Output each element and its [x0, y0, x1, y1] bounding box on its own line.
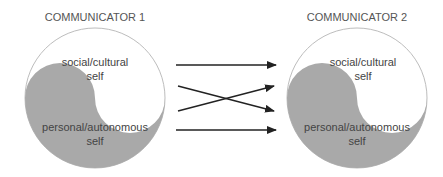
communicator-2: COMMUNICATOR 2 social/cultural self pers…: [287, 11, 427, 168]
communicator-1-social-label-line2: self: [86, 70, 104, 82]
communicator-2-personal-label-line1: personal/autonomous: [304, 121, 410, 133]
communicator-2-title: COMMUNICATOR 2: [307, 11, 407, 23]
communicator-1-personal-label-line1: personal/autonomous: [42, 121, 148, 133]
communicator-1: COMMUNICATOR 1 social/cultural self pers…: [25, 11, 165, 168]
communicator-2-social-label-line2: self: [354, 70, 372, 82]
communicator-2-social-label-line1: social/cultural: [330, 56, 397, 68]
communicator-2-personal-label-line2: self: [348, 135, 366, 147]
communicator-1-social-label-line1: social/cultural: [62, 56, 129, 68]
communicator-1-title: COMMUNICATOR 1: [45, 11, 145, 23]
communication-diagram: COMMUNICATOR 1 social/cultural self pers…: [0, 0, 443, 177]
arrows: [176, 65, 276, 130]
communicator-1-personal-label-line2: self: [86, 135, 104, 147]
